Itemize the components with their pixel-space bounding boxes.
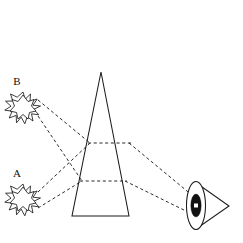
diagram-canvas: B A <box>0 0 243 243</box>
light-source-a: A <box>5 167 41 216</box>
light-source-b: B <box>5 75 41 124</box>
label-source-a: A <box>13 167 21 179</box>
prism <box>72 72 129 216</box>
eye-pupil-highlight-icon <box>194 204 198 208</box>
ray-group-a <box>38 143 90 208</box>
eye <box>187 182 230 230</box>
prism-internal-paths <box>80 143 131 181</box>
ray-b-upper-incident <box>38 100 90 143</box>
ray-b-upper-emergent <box>129 143 193 196</box>
label-source-b: B <box>13 75 20 87</box>
prism-outline <box>72 72 129 216</box>
ray-b-lower-emergent <box>125 181 192 214</box>
ray-diagram-figure: B A <box>0 0 243 243</box>
ray-a-lower-incident <box>38 181 82 208</box>
ray-group-b <box>38 100 193 214</box>
